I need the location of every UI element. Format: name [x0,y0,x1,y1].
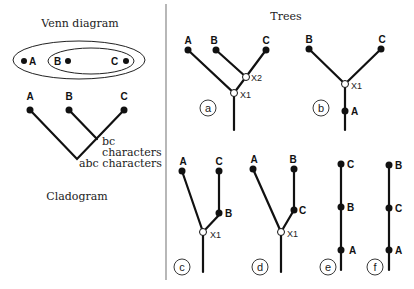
tree-a-label-a: A [184,35,191,46]
tree-b-label-b: B [305,34,312,45]
tree-a-label-x1: X1 [240,90,251,100]
tree-d-label-b: B [289,154,296,165]
tree-c-node-x1 [200,229,207,236]
tree-f-point-c [386,205,393,212]
tree-f-point-b [386,162,393,169]
venn-point-b [65,58,71,64]
tree-a-label-c: C [262,35,269,46]
clado-label-c: C [120,91,127,102]
tree-b-label-a: A [351,106,358,117]
tree-a-outer-branch [188,50,266,93]
tree-e-point-c [338,161,345,168]
venn-point-a [21,58,27,64]
tree-f-point-a [386,247,393,254]
clado-tip-c [121,107,128,114]
venn-label-a: A [29,56,36,67]
tree-c-branches [182,171,219,232]
tree-d-branches [253,169,294,232]
venn-point-c [123,58,129,64]
tree-b-branches [309,49,381,84]
tree-e-label-a: A [349,245,356,256]
tree-a-node-x2 [243,74,250,81]
tree-e-point-b [338,204,345,211]
tree-e: C B A e [320,159,356,275]
tree-b-tip-c [378,46,385,53]
tree-e-badge-label: e [325,261,331,273]
tree-c-point-b [216,210,223,217]
tree-b-point-a [342,108,349,115]
tree-f-label-b: B [395,160,402,171]
tree-a: A B C X2 X1 a [184,35,269,130]
cladogram: A B C bc characters abc characters Clado… [26,91,162,203]
tree-f-badge-label: f [373,261,377,273]
tree-a-badge-label: a [205,102,212,114]
tree-d-tip-a [250,166,257,173]
venn-title: Venn diagram [40,17,119,30]
tree-d-tip-b [291,166,298,173]
tree-a-tip-a [185,47,192,54]
tree-b-label-c: C [378,34,385,45]
tree-b: B C X1 A b [305,34,385,130]
clado-label-a: A [26,91,33,102]
clado-tip-b [66,107,73,114]
venn-label-c: C [111,56,118,67]
tree-b-badge-label: b [318,102,324,114]
tree-c-label-x1: X1 [210,230,221,240]
tree-d-label-x1: X1 [287,229,298,239]
tree-c-tip-c [216,168,223,175]
tree-a-node-x1 [231,90,238,97]
tree-e-label-b: B [347,202,354,213]
tree-b-tip-b [306,46,313,53]
tree-c-label-a: A [179,156,186,167]
tree-a-label-b: B [210,35,217,46]
tree-e-point-a [338,247,345,254]
tree-f-label-a: A [395,245,402,256]
tree-d-label-a: A [250,154,257,165]
phylogeny-figure: Venn diagram A B C A B C bc characters a… [0,0,414,289]
tree-a-tip-c [263,47,270,54]
tree-d-point-c [291,207,298,214]
tree-d-badge-label: d [257,261,263,273]
tree-b-label-x1: X1 [351,81,362,91]
tree-f-label-c: C [395,203,402,214]
tree-c: A C B X1 c [174,156,232,275]
tree-d-label-c: C [299,205,306,216]
tree-c-badge-label: c [179,261,185,273]
venn-diagram: Venn diagram A B C [13,17,145,79]
cladogram-title: Cladogram [46,190,108,203]
clado-label-b: B [65,91,72,102]
tree-d-node-x1 [278,229,285,236]
tree-a-branch-b [216,50,246,77]
tree-c-label-c: C [215,156,222,167]
figure-canvas: Venn diagram A B C A B C bc characters a… [0,0,414,289]
tree-c-label-b: B [225,208,232,219]
abc-characters-label: abc characters [79,157,162,170]
tree-f: B C A f [367,160,402,275]
tree-e-label-c: C [347,159,354,170]
venn-label-b: B [54,56,61,67]
tree-a-tip-b [213,47,220,54]
clado-tip-a [27,107,34,114]
tree-a-label-x2: X2 [251,73,262,83]
tree-b-node-x1 [342,81,349,88]
clado-branch-b [69,110,97,139]
tree-c-tip-a [179,168,186,175]
trees-title: Trees [270,10,302,23]
tree-d: A B C X1 d [250,154,307,275]
